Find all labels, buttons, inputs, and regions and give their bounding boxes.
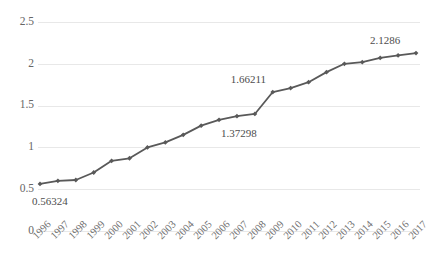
x-axis-labels: 1996199719981999200020012002200320042005… [0, 0, 428, 271]
data-label-2017: 2.1286 [370, 35, 400, 46]
line-chart: 2.5 2 1.5 1 0.5 0 1996199719981999200020… [0, 0, 428, 271]
x-axis-tick-2017: 2017 [407, 219, 428, 241]
data-label-1996: 0.56324 [32, 196, 68, 207]
data-label-2009: 1.66211 [231, 74, 266, 85]
data-label-2007: 1.37298 [221, 128, 257, 139]
